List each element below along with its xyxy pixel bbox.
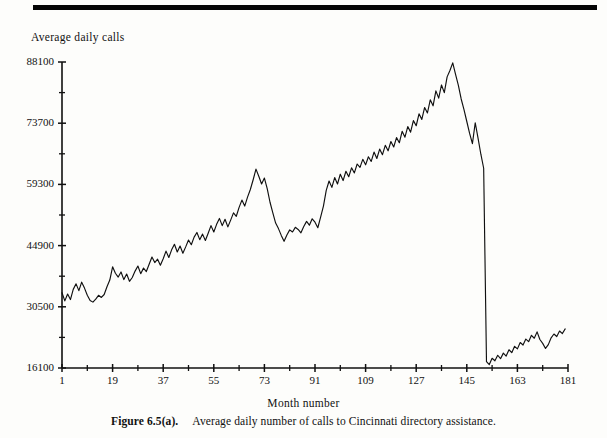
y-tick-label: 44900 (0, 239, 54, 251)
y-axis-ticks (58, 62, 66, 368)
x-tick-label: 127 (391, 374, 441, 386)
x-tick-label: 73 (239, 374, 289, 386)
x-tick-label: 55 (189, 374, 239, 386)
y-tick-label: 59300 (0, 177, 54, 189)
figure-number: Figure 6.5(a). (111, 415, 178, 427)
figure-caption: Figure 6.5(a).Average daily number of ca… (0, 415, 607, 427)
y-axis-title: Average daily calls (31, 31, 125, 43)
x-tick-label: 181 (543, 374, 593, 386)
x-axis-ticks (62, 364, 568, 372)
y-tick-label: 73700 (0, 116, 54, 128)
x-tick-label: 91 (290, 374, 340, 386)
y-tick-label: 30500 (0, 300, 54, 312)
chart-axes (58, 62, 568, 372)
x-tick-label: 163 (492, 374, 542, 386)
x-tick-label: 37 (138, 374, 188, 386)
figure-caption-text: Average daily number of calls to Cincinn… (192, 415, 496, 427)
y-tick-label: 88100 (0, 55, 54, 67)
line-chart-plot (0, 0, 607, 438)
x-tick-label: 109 (341, 374, 391, 386)
y-tick-label: 16100 (0, 361, 54, 373)
header-rule (33, 5, 597, 10)
series-line-average-daily-calls (62, 63, 565, 365)
chart-series (62, 63, 565, 365)
x-axis-title: Month number (0, 397, 607, 409)
x-tick-label: 145 (442, 374, 492, 386)
figure-page: Average daily calls 16100305004490059300… (0, 0, 607, 438)
x-tick-label: 19 (88, 374, 138, 386)
x-tick-label: 1 (37, 374, 87, 386)
